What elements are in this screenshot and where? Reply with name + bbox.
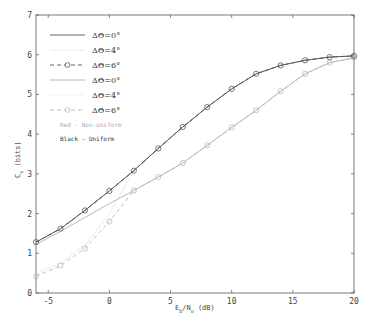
x-tick-label: 5 <box>168 297 173 306</box>
legend-marker <box>65 63 70 68</box>
y-tick-label: 1 <box>27 249 32 258</box>
x-tick-label: 15 <box>288 297 298 306</box>
y-axis-label: Cs (bits) <box>14 141 24 178</box>
x-tick-label: 10 <box>227 297 237 306</box>
y-tick-label: 4 <box>27 130 32 139</box>
x-axis-label: Eb/No (dB) <box>175 304 215 314</box>
x-tick-label: 20 <box>349 297 359 306</box>
legend-label: ΔΘ=0° <box>92 76 120 85</box>
y-tick-label: 3 <box>27 170 32 179</box>
x-tick-label: -5 <box>43 297 53 306</box>
legend-note: Red - Non-uniform <box>60 121 122 128</box>
y-tick-label: 2 <box>27 210 32 219</box>
legend-label: ΔΘ=6° <box>92 106 120 115</box>
y-tick-label: 0 <box>27 289 32 298</box>
legend-note: Black - Uniform <box>60 135 115 142</box>
legend-label: ΔΘ=6° <box>92 61 120 70</box>
y-tick-label: 6 <box>27 51 32 60</box>
legend-label: ΔΘ=4° <box>92 91 120 100</box>
chart: -50510152001234567 ΔΘ=0°ΔΘ=4°ΔΘ=6°ΔΘ=0°Δ… <box>0 0 371 327</box>
x-tick-label: 0 <box>107 297 112 306</box>
legend-label: ΔΘ=0° <box>92 31 120 40</box>
y-tick-label: 7 <box>27 11 32 20</box>
y-tick-label: 5 <box>27 90 32 99</box>
legend-label: ΔΘ=4° <box>92 46 120 55</box>
legend-marker <box>65 108 70 113</box>
